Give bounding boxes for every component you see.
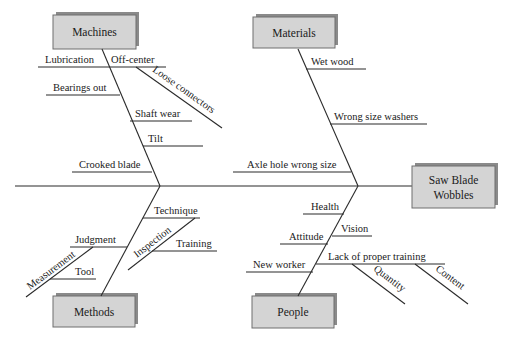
category-materials: Materials Wet wood Wrong size washers Ax…	[233, 14, 427, 186]
cause-measurement: Measurement	[25, 249, 77, 292]
effect-label-line1: Saw Blade	[429, 174, 479, 186]
cause-vision: Vision	[341, 223, 369, 234]
cause-off-center: Off-center	[111, 54, 155, 65]
cause-inspection: Inspection	[131, 224, 173, 260]
cause-bearings-out: Bearings out	[53, 82, 106, 93]
cause-health: Health	[311, 201, 340, 212]
effect-box: Saw Blade Wobbles	[412, 163, 498, 208]
cause-crooked-blade: Crooked blade	[79, 159, 141, 170]
category-label-materials: Materials	[272, 27, 316, 39]
cause-content: Content	[434, 263, 467, 292]
category-label-people: People	[277, 306, 308, 319]
fishbone-diagram: Saw Blade Wobbles Machines Lubrication O…	[0, 0, 512, 342]
cause-tilt: Tilt	[148, 133, 163, 144]
cause-training: Training	[176, 238, 213, 249]
effect-label-line2: Wobbles	[434, 189, 474, 201]
category-methods: Methods Technique Inspection Training Ju…	[25, 186, 217, 327]
cause-shaft-wear: Shaft wear	[135, 108, 181, 119]
category-machines: Machines Lubrication Off-center Loose co…	[38, 12, 222, 186]
cause-axle-hole-wrong-size: Axle hole wrong size	[247, 159, 337, 170]
cause-tool: Tool	[75, 266, 94, 277]
cause-wet-wood: Wet wood	[311, 56, 354, 67]
cause-new-worker: New worker	[253, 259, 306, 270]
cause-lubrication: Lubrication	[45, 54, 95, 65]
cause-judgment: Judgment	[75, 234, 116, 245]
cause-technique: Technique	[154, 205, 198, 216]
cause-lack-of-proper-training: Lack of proper training	[328, 251, 426, 262]
category-label-methods: Methods	[74, 306, 115, 318]
category-label-machines: Machines	[72, 26, 117, 38]
cause-quantity: Quantity	[372, 263, 409, 294]
cause-wrong-size-washers: Wrong size washers	[334, 111, 418, 122]
cause-attitude: Attitude	[289, 231, 324, 242]
